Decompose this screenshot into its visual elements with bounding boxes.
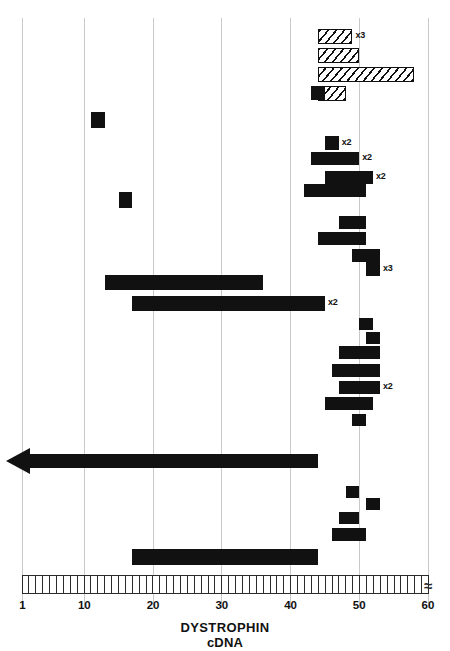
exon-cell	[181, 576, 188, 593]
exon-cell	[153, 576, 160, 593]
exon-cell	[112, 576, 119, 593]
exon-cell	[305, 576, 312, 593]
exon-cell	[291, 576, 298, 593]
exon-cell	[126, 576, 133, 593]
exon-cell	[119, 576, 126, 593]
deletion-bar-del-13	[132, 296, 324, 311]
deletion-bar-del-23	[339, 512, 360, 524]
gridline-exon-60	[428, 18, 429, 608]
multiplicity-label-del-13: x2	[328, 298, 338, 307]
exon-cell	[167, 576, 174, 593]
exon-cell	[147, 576, 154, 593]
axis-tick-label-50: 50	[353, 599, 366, 611]
multiplicity-label-del-6: x2	[376, 172, 386, 181]
exon-cell	[85, 576, 92, 593]
exon-cell	[388, 576, 395, 593]
deletion-bar-del-21	[346, 486, 360, 498]
exon-cell	[284, 576, 291, 593]
deletion-bar-del-22	[366, 498, 380, 510]
axis-tick-label-60: 60	[422, 599, 435, 611]
exon-cell	[188, 576, 195, 593]
multiplicity-label-del-11: x3	[383, 264, 393, 273]
multiplicity-label-del-5: x2	[362, 153, 372, 162]
duplication-bar-dup-1	[318, 29, 352, 44]
exon-cell	[133, 576, 140, 593]
multiplicity-label-del-4: x2	[342, 138, 352, 147]
axis-title-line-2: cDNA	[0, 635, 450, 650]
gridline-exon-20	[153, 18, 154, 608]
multiplicity-label-del-18: x2	[383, 382, 393, 391]
axis-title-line-1: DYSTROPHIN	[0, 620, 450, 635]
exon-cell	[415, 576, 422, 593]
exon-cell	[319, 576, 326, 593]
exon-cell	[360, 576, 367, 593]
gridline-exon-10	[84, 18, 85, 608]
exon-cell	[174, 576, 181, 593]
exon-cell	[381, 576, 388, 593]
deletion-bar-del-12	[105, 275, 263, 290]
deletion-bar-del-4	[325, 136, 339, 150]
exon-cell	[333, 576, 340, 593]
exon-cell	[236, 576, 243, 593]
exon-cell	[353, 576, 360, 593]
exon-cell	[277, 576, 284, 593]
exon-cell	[71, 576, 78, 593]
exon-cell	[202, 576, 209, 593]
exon-cell	[312, 576, 319, 593]
axis-tick-label-40: 40	[284, 599, 297, 611]
exon-cell	[105, 576, 112, 593]
deletion-bar-del-25	[132, 549, 318, 565]
deletion-bar-del-5	[311, 152, 359, 165]
exon-cell	[229, 576, 236, 593]
exon-cell	[271, 576, 278, 593]
exon-cell	[43, 576, 50, 593]
deletion-bar-del-7	[304, 184, 366, 197]
exon-cell	[264, 576, 271, 593]
exon-cell	[57, 576, 64, 593]
axis-tick-label-10: 10	[78, 599, 91, 611]
deletion-bar-del-1	[311, 86, 325, 100]
deletion-bar-del-15	[366, 332, 380, 344]
deletion-bar-del-3	[119, 192, 133, 208]
exon-cell	[243, 576, 250, 593]
exon-cell	[36, 576, 43, 593]
exon-cell	[326, 576, 333, 593]
exon-ladder-axis	[22, 575, 430, 594]
deletion-bar-del-2	[91, 112, 105, 128]
gridline-exon-40	[290, 18, 291, 608]
multiplicity-label-dup-1: x3	[355, 31, 365, 40]
axis-tick-label-30: 30	[215, 599, 228, 611]
gridline-exon-1	[22, 18, 23, 608]
deletion-bar-del-6	[325, 171, 373, 184]
deletion-bar-del-19	[325, 397, 373, 410]
deletion-bar-del-20	[352, 414, 366, 426]
exon-cell	[401, 576, 408, 593]
exon-cell	[91, 576, 98, 593]
exon-cell	[408, 576, 415, 593]
axis-break-icon: ≈	[424, 578, 432, 593]
dystrophin-cdna-deletion-map: x3x2x2x2x3x2x2≈1102030405060DYSTROPHINcD…	[0, 0, 450, 651]
deletion-bar-del-14	[359, 318, 373, 330]
deletion-bar-del-16	[339, 346, 380, 359]
axis-tick-label-20: 20	[147, 599, 160, 611]
gridline-exon-30	[221, 18, 222, 608]
deletion-arrow-head	[6, 448, 30, 474]
exon-cell	[339, 576, 346, 593]
exon-cell	[64, 576, 71, 593]
exon-cell	[367, 576, 374, 593]
axis-title: DYSTROPHINcDNA	[0, 620, 450, 650]
deletion-bar-del-9	[318, 232, 366, 245]
deletion-arrow-shaft	[29, 454, 318, 468]
deletion-bar-del-17	[332, 364, 380, 377]
exon-cell	[209, 576, 216, 593]
exon-cell	[23, 576, 30, 593]
exon-cell	[222, 576, 229, 593]
exon-cell	[257, 576, 264, 593]
deletion-bar-del-18	[339, 381, 380, 394]
exon-cell	[78, 576, 85, 593]
exon-cell	[374, 576, 381, 593]
duplication-bar-dup-3	[318, 67, 414, 82]
exon-cell	[98, 576, 105, 593]
exon-cell	[195, 576, 202, 593]
exon-cell	[29, 576, 36, 593]
